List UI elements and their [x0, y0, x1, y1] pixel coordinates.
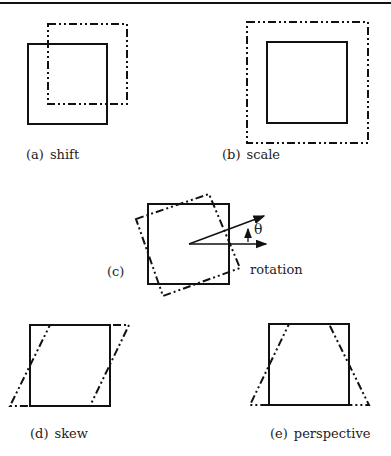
original-square — [269, 324, 349, 405]
panel-rotation — [136, 194, 266, 296]
rotated-axis-arrow — [189, 216, 264, 244]
shifted-square — [48, 24, 127, 104]
caption-rotation-tag: (c) — [107, 264, 124, 279]
caption-perspective: (e)perspective — [270, 426, 370, 441]
caption-tag: (a) — [26, 147, 44, 162]
caption-text: rotation — [250, 262, 303, 277]
panel-skew — [10, 325, 129, 406]
caption-text: perspective — [294, 426, 371, 441]
perspective-trapezoid — [250, 324, 369, 405]
transformations-diagram — [0, 0, 391, 456]
caption-text: skew — [54, 426, 87, 441]
caption-text: scale — [246, 147, 280, 162]
caption-tag: (e) — [270, 426, 288, 441]
original-square — [267, 42, 347, 123]
rotated-square — [136, 194, 240, 296]
panel-shift — [28, 24, 127, 124]
caption-shift: (a)shift — [26, 147, 79, 162]
panel-perspective — [250, 324, 369, 405]
caption-tag: (d) — [30, 426, 48, 441]
original-square — [28, 44, 107, 124]
caption-rotation: rotation — [250, 262, 303, 277]
caption-text: shift — [50, 147, 79, 162]
caption-skew: (d)skew — [30, 426, 88, 441]
skewed-parallelogram — [10, 325, 129, 406]
caption-tag: (b) — [222, 147, 240, 162]
panel-scale — [247, 22, 368, 143]
theta-symbol: θ — [254, 221, 262, 237]
original-square — [30, 325, 110, 406]
theta-label: θ — [254, 221, 262, 237]
caption-scale: (b)scale — [222, 147, 280, 162]
scaled-square — [247, 22, 368, 143]
caption-tag: (c) — [107, 264, 124, 279]
